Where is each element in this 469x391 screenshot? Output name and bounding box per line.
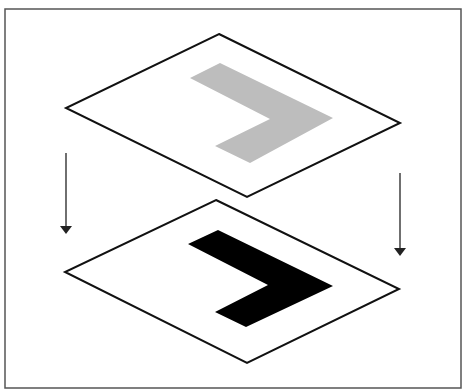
bottom-plane-group: [65, 200, 399, 363]
bottom-plane: [65, 200, 399, 363]
right-down-arrow: [394, 173, 406, 256]
projection-diagram: [0, 0, 469, 391]
arrow-down-icon: [60, 226, 72, 234]
top-plane-group: [66, 34, 400, 197]
arrow-down-icon: [394, 248, 406, 256]
left-down-arrow: [60, 153, 72, 234]
top-plane: [66, 34, 400, 197]
